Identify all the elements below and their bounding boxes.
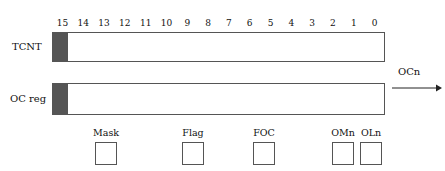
bit-number: 6: [239, 17, 260, 29]
bit-number: 9: [177, 17, 198, 29]
bit-number: 4: [281, 17, 302, 29]
bit-number: 1: [343, 17, 364, 29]
control-bit-box[interactable]: [360, 142, 382, 165]
control-bit-label: Flag: [173, 127, 213, 138]
oc-register: [52, 83, 385, 115]
bit-number: 3: [302, 17, 323, 29]
bit-number: 5: [260, 17, 281, 29]
bit-number-strip: 15 14 13 12 11 10 9 8 7 6 5 4 3 2 1 0: [52, 17, 385, 29]
timer-compare-diagram: TCNT 15 14 13 12 11 10 9 8 7 6 5 4 3 2 1…: [0, 0, 445, 171]
bit-number: 11: [135, 17, 156, 29]
arrow-right-icon: [392, 83, 442, 93]
control-bit-box[interactable]: [182, 142, 204, 165]
tcnt-cell[interactable]: [67, 33, 68, 61]
tcnt-register: [52, 32, 385, 62]
tcnt-row-label: TCNT: [12, 42, 42, 52]
control-bit-oln: OLn: [351, 127, 391, 165]
control-bit-flag: Flag: [173, 127, 213, 165]
control-bit-label: OLn: [351, 127, 391, 138]
control-bit-mask: Mask: [86, 127, 126, 165]
bit-number: 13: [94, 17, 115, 29]
bit-number: 2: [323, 17, 344, 29]
oc-reg-row-label: OC reg: [10, 94, 46, 104]
bit-number: 15: [52, 17, 73, 29]
bit-number: 10: [156, 17, 177, 29]
bit-number: 8: [198, 17, 219, 29]
control-bit-label: Mask: [86, 127, 126, 138]
control-bit-foc: FOC: [244, 127, 284, 165]
bit-number: 7: [219, 17, 240, 29]
control-bit-label: FOC: [244, 127, 284, 138]
control-bit-box[interactable]: [253, 142, 275, 165]
ocn-output-label: OCn: [398, 67, 420, 77]
oc-reg-cell[interactable]: [67, 84, 68, 114]
bit-number: 0: [364, 17, 385, 29]
bit-number: 12: [114, 17, 135, 29]
control-bit-box[interactable]: [95, 142, 117, 165]
bit-number: 14: [73, 17, 94, 29]
